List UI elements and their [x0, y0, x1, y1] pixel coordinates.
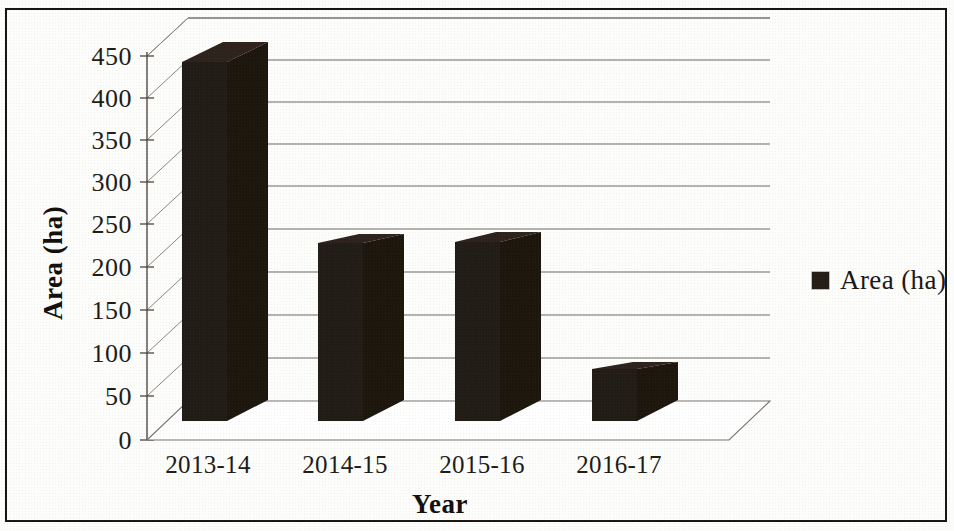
grid-connector-150	[147, 272, 188, 310]
grid-connector-350	[147, 102, 188, 140]
bars-group	[182, 42, 678, 421]
grid-connector-450	[147, 18, 188, 56]
x-tick-label-2015-16: 2015-16	[402, 452, 562, 477]
x-tick-label-2016-17: 2016-17	[539, 452, 699, 477]
y-tick-label-300: 300	[46, 170, 132, 196]
bar-2015-16	[455, 232, 541, 421]
y-axis-title: Area (ha)	[38, 206, 69, 320]
bar-2013-14	[182, 42, 268, 421]
bar-2014-15	[318, 234, 404, 421]
y-tick-label-0: 0	[46, 428, 132, 454]
grid-connector-50	[147, 358, 188, 396]
grid-connector-250	[147, 186, 188, 224]
y-tick-label-450: 450	[46, 44, 132, 70]
grid-connector-300	[147, 144, 188, 182]
grid-connector-400	[147, 60, 188, 98]
x-axis-title: Year	[290, 489, 590, 520]
y-tick-label-50: 50	[46, 384, 132, 410]
legend-square-icon	[812, 272, 829, 289]
grid-connector-100	[147, 315, 188, 353]
x-tick-label-2014-15: 2014-15	[265, 452, 425, 477]
chart-figure: 450 400 350 300 250 200 150 100 50 0 Are…	[0, 0, 954, 531]
grid-connector-200	[147, 229, 188, 267]
legend-item-label: Area (ha)	[840, 265, 946, 296]
chart-legend: Area (ha)	[812, 265, 946, 296]
y-tick-label-400: 400	[46, 86, 132, 112]
y-tick-label-100: 100	[46, 341, 132, 367]
x-tick-label-2013-14: 2013-14	[128, 452, 288, 477]
y-tick-label-350: 350	[46, 128, 132, 154]
